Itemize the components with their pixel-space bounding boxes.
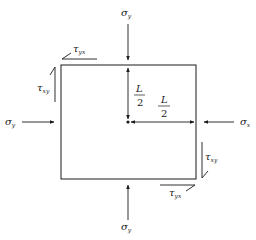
tau-yx-bottom-label: τyx (169, 187, 182, 200)
tau-yx-bottom-shear (160, 185, 195, 191)
svg-text:L: L (160, 94, 168, 105)
tau-xy-right-label: τxy (205, 151, 218, 164)
tau-xy-left-label: τxy (37, 82, 50, 95)
stress-element-diagram: σy σy σy σx τyx τxy τxy τyx L 2 L 2 (0, 0, 256, 240)
dim-vertical-fraction: L 2 (134, 83, 145, 108)
sigma-y-top-label: σy (121, 7, 132, 20)
svg-text:L: L (135, 83, 143, 94)
sigma-y-left-label: σy (5, 116, 16, 129)
center-point (126, 120, 129, 123)
sigma-x-right-label: σx (240, 116, 251, 128)
sigma-y-bottom-label: σy (121, 221, 132, 234)
tau-yx-top-label: τyx (73, 43, 86, 56)
tau-xy-left-shear (50, 67, 55, 102)
svg-text:2: 2 (161, 108, 167, 119)
svg-text:2: 2 (137, 97, 143, 108)
dim-horizontal-fraction: L 2 (158, 94, 170, 119)
